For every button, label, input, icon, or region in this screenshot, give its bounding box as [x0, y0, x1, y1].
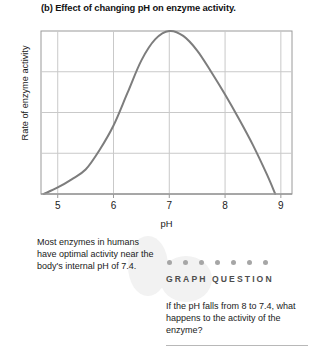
- x-tick-label: 8: [215, 200, 235, 211]
- dot: [231, 260, 236, 265]
- graph-question-text: If the pH falls from 8 to 7.4, what happ…: [166, 300, 308, 337]
- chart-container: Rate of enzyme activity 56789 pH: [0, 20, 314, 235]
- x-tick-label: 7: [159, 200, 179, 211]
- horizontal-rule: [166, 345, 308, 346]
- dot: [247, 260, 252, 265]
- figure-panel: (b) Effect of changing pH on enzyme acti…: [0, 0, 314, 358]
- dot: [183, 260, 188, 265]
- dot: [199, 260, 204, 265]
- x-tick-label: 6: [104, 200, 124, 211]
- x-axis-label: pH: [41, 218, 292, 229]
- decorative-dots: [167, 260, 307, 270]
- dot: [263, 260, 268, 265]
- figure-caption: Most enzymes in humans have optimal acti…: [37, 236, 155, 273]
- x-tick-label: 9: [271, 200, 291, 211]
- x-tick-label: 5: [48, 200, 68, 211]
- graph-question-heading: GRAPH QUESTION: [166, 274, 274, 284]
- dot: [167, 260, 172, 265]
- enzyme-ph-activity-plot: [0, 20, 314, 220]
- dot: [215, 260, 220, 265]
- figure-title: (b) Effect of changing pH on enzyme acti…: [41, 2, 303, 14]
